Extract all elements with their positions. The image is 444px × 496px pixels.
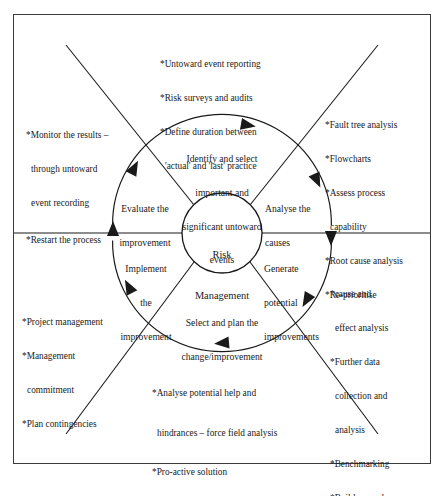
annotation-item: collection and [330,391,436,402]
annotation-implementation-tools: *Project management *Management commitme… [22,294,142,453]
annotation-item: *Project management [22,317,142,328]
annotation-item: *Build on each [330,493,436,496]
annotation-item: hindrances – force field analysis [152,429,342,439]
annotation-item: *Monitor the results – [26,130,146,141]
annotation-item: *Management [22,351,142,362]
page-header-mark [352,1,410,9]
annotation-item: *Further data [330,357,436,368]
annotation-item: *Analyse potential help and [152,387,342,401]
annotation-item: event recording [26,198,146,209]
annotation-item: *Fault tree analysis [325,120,437,131]
annotation-item: *Pro-active solution [152,466,342,480]
annotation-item: *Define duration between [160,127,320,138]
annotation-item: *Risk surveys and audits [160,93,320,104]
annotation-evaluation-tools: *Monitor the results – through untoward … [26,107,146,269]
annotation-improvement-tools: *cause and effect analysis *Further data… [330,266,436,496]
annotation-item: *Untoward event reporting [160,59,320,70]
annotation-item: *Restart the process [26,235,146,246]
annotation-item: *Benchmarking [330,459,436,470]
diagram-canvas: Risk Management Identify and select impo… [0,0,444,496]
annotation-item: *cause and [330,289,436,300]
annotation-item: *Plan contingencies [22,419,142,430]
annotation-item: 'actual' and 'last' practice [160,161,320,172]
annotation-item: *Flowcharts [325,154,437,165]
annotation-item: through untoward [26,164,146,175]
annotation-item: effect analysis [330,323,436,334]
annotation-item: capability [325,222,437,233]
annotation-top-tools: *Untoward event reporting *Risk surveys … [160,36,320,195]
annotation-item: *Assess process [325,188,437,199]
annotation-item: commitment [22,385,142,396]
annotation-planning-tools: *Analyse potential help and hindrances –… [152,359,342,496]
annotation-item: analysis [330,425,436,436]
